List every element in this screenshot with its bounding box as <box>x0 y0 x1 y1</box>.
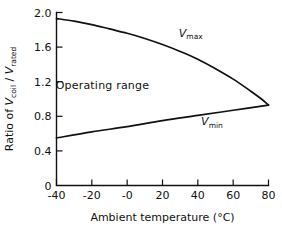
y-tick-label-1.2: 1.2 <box>34 76 52 89</box>
x-tick-label-0: -0 <box>122 189 133 202</box>
curve-label-vmax: Vmax <box>179 27 203 42</box>
x-tick-label-40: 40 <box>191 189 205 202</box>
y-tick-label-2: 2.0 <box>34 7 52 20</box>
x-tick-label-60: 60 <box>226 189 240 202</box>
chart-curve-labels: VmaxVmin <box>179 27 223 130</box>
y-tick-label-0: 0 <box>45 180 52 193</box>
chart-plot-svg: -40-20-020406080 00.40.81.21.62.0 VmaxVm… <box>0 0 282 227</box>
y-tick-label-1.6: 1.6 <box>34 41 52 54</box>
curve-vmin <box>57 105 269 138</box>
chart-annotations: Operating range <box>56 79 150 92</box>
y-axis-title: Ratio of Vcoil / Vrated <box>3 47 18 152</box>
axis-frame <box>57 13 269 186</box>
annotation-operating-range: Operating range <box>56 79 150 92</box>
chart-figure: -40-20-020406080 00.40.81.21.62.0 VmaxVm… <box>0 0 282 227</box>
x-axis-tick-labels: -40-20-020406080 <box>48 189 276 202</box>
curve-label-vmin: Vmin <box>201 115 223 130</box>
x-axis-title: Ambient temperature (°C) <box>90 211 234 224</box>
curve-vmax <box>57 19 269 105</box>
y-axis-tick-labels: 00.40.81.21.62.0 <box>34 7 52 193</box>
x-tick-label-20: 20 <box>156 189 170 202</box>
x-tick-label--20: -20 <box>83 189 101 202</box>
x-tick-label-80: 80 <box>262 189 276 202</box>
x-axis-ticks <box>57 180 269 186</box>
y-tick-label-0.8: 0.8 <box>34 110 52 123</box>
chart-axes <box>57 13 269 186</box>
y-tick-label-0.4: 0.4 <box>34 145 52 158</box>
